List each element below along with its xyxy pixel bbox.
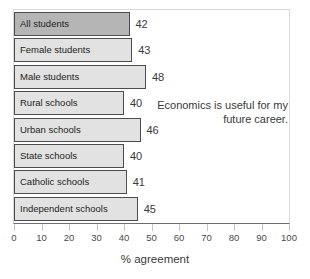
x-axis-tick-label: 40 [119,232,130,243]
bar-value-label: 43 [138,38,150,62]
x-axis-tick-label: 50 [146,232,157,243]
bar-value-label: 40 [130,144,142,168]
bar-category-label: State schools [20,144,77,168]
x-axis-title: % agreement [0,253,310,265]
chart-annotation: Economics is useful for my future career… [138,98,288,126]
x-axis-tick [179,224,180,231]
x-axis-tick-label: 100 [281,232,297,243]
bar-category-label: Male students [20,65,79,89]
bar-row: State schools40 [14,144,289,168]
x-axis-tick [207,224,208,231]
bar-row: Independent schools45 [14,197,289,221]
x-axis-tick-label: 20 [64,232,75,243]
x-axis-tick [152,224,153,231]
x-axis-tick-label: 70 [201,232,212,243]
x-axis-tick-label: 80 [229,232,240,243]
x-axis-tick [289,224,290,231]
bar-category-label: Independent schools [20,197,108,221]
x-axis-tick-label: 90 [256,232,267,243]
x-axis-tick-label: 30 [91,232,102,243]
bar-category-label: Rural schools [20,91,78,115]
x-axis-tick-label: 60 [174,232,185,243]
bar-value-label: 45 [144,197,156,221]
x-axis-tick-label: 10 [36,232,47,243]
bar-value-label: 48 [152,65,164,89]
bar-row: Female students43 [14,38,289,62]
x-axis-tick [42,224,43,231]
bar-row: Catholic schools41 [14,170,289,194]
bar-row: All students42 [14,12,289,36]
bar-value-label: 42 [136,12,148,36]
x-axis: 0102030405060708090100 [14,224,289,246]
bar-category-label: Catholic schools [20,170,89,194]
x-axis-tick-label: 0 [11,232,16,243]
bar-row: Male students48 [14,65,289,89]
bar-category-label: Female students [20,38,90,62]
x-axis-tick [262,224,263,231]
bar-chart: All students42Female students43Male stud… [0,0,310,279]
x-axis-tick [69,224,70,231]
bar-value-label: 41 [133,170,145,194]
bar-category-label: Urban schools [20,118,81,142]
x-axis-tick [124,224,125,231]
bar-category-label: All students [20,12,69,36]
x-axis-tick [14,224,15,231]
x-axis-tick [97,224,98,231]
x-axis-tick [234,224,235,231]
